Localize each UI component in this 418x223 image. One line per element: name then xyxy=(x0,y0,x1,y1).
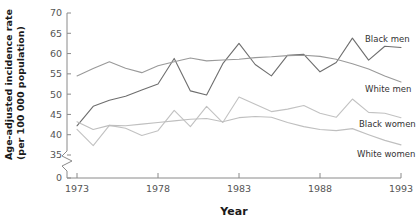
x-axis-ticks: 19731978198319881993 xyxy=(65,173,413,194)
chart-container: Age-adjusted incidence rate (per 100 000… xyxy=(0,0,418,223)
y-axis-line xyxy=(62,13,72,178)
y-tick-label-0: 0 xyxy=(56,172,62,183)
series-label-white-women: White women xyxy=(357,149,415,159)
y-tick-label-65: 65 xyxy=(50,28,62,39)
y-tick-label-40: 40 xyxy=(50,129,62,140)
y-tick-label-70: 70 xyxy=(50,7,62,18)
x-tick-label-1988: 1988 xyxy=(308,183,332,194)
series-line-black-women xyxy=(77,97,401,146)
line-chart: Age-adjusted incidence rate (per 100 000… xyxy=(0,0,418,223)
y-tick-label-60: 60 xyxy=(50,48,62,59)
series-labels: Black menWhite menBlack womenWhite women xyxy=(357,34,416,159)
y-axis-title-line2: (per 100 000 population) xyxy=(15,26,26,160)
y-tick-label-55: 55 xyxy=(50,68,62,79)
x-tick-label-1978: 1978 xyxy=(146,183,170,194)
x-axis-title: Year xyxy=(219,205,248,218)
x-tick-label-1973: 1973 xyxy=(65,183,89,194)
series-label-black-men: Black men xyxy=(365,34,410,44)
y-tick-label-50: 50 xyxy=(50,89,62,100)
series-line-black-men xyxy=(77,38,401,126)
series-line-white-men xyxy=(77,55,401,82)
y-axis-title-line1: Age-adjusted incidence rate xyxy=(3,9,14,160)
y-axis-ticks: 03540455055606570 xyxy=(50,7,71,183)
x-tick-label-1983: 1983 xyxy=(227,183,251,194)
y-axis-title: Age-adjusted incidence rate (per 100 000… xyxy=(3,9,26,160)
series-lines xyxy=(77,38,401,146)
y-tick-label-35: 35 xyxy=(50,149,62,160)
series-label-black-women: Black women xyxy=(359,119,416,129)
series-line-white-women xyxy=(77,116,401,144)
series-label-white-men: White men xyxy=(365,84,411,94)
y-tick-label-45: 45 xyxy=(50,109,62,120)
x-tick-label-1993: 1993 xyxy=(389,183,413,194)
